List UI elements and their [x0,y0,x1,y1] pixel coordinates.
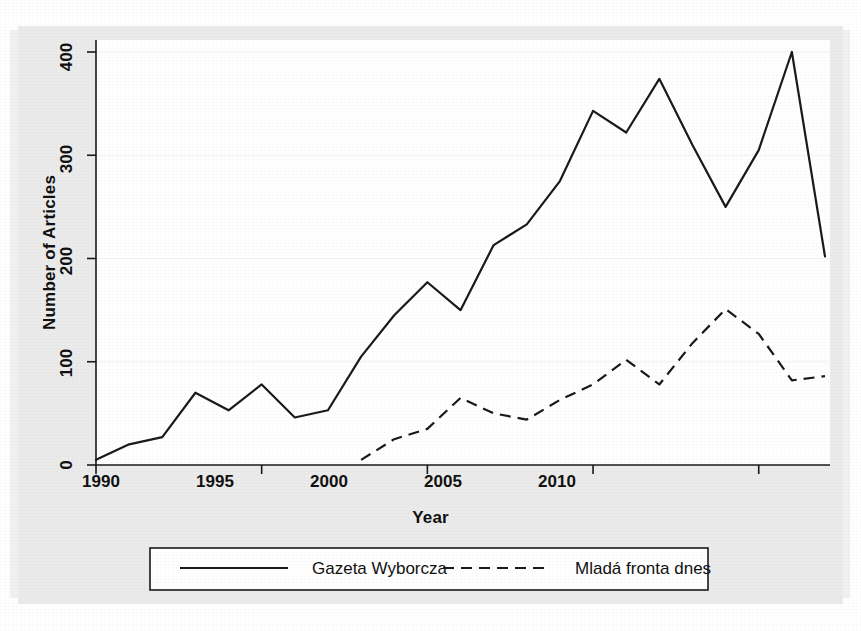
line-mlada-fronta-dnes [361,309,825,460]
axes-lines [96,40,830,465]
chart-svg [0,0,861,631]
data-series-layer [96,52,825,460]
figure-container: Number of Articles Year 400 300 200 100 … [0,0,861,631]
legend-frame [150,548,708,590]
axis-ticks [87,52,759,474]
